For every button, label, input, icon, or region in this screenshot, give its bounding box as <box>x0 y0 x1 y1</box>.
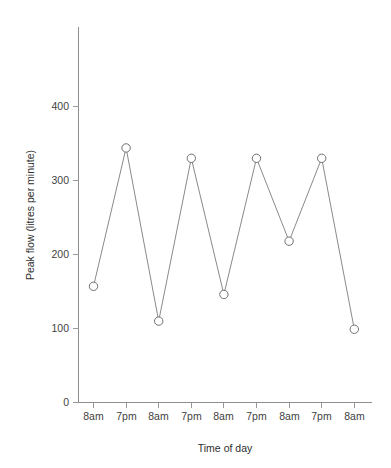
data-point <box>350 325 358 333</box>
y-axis-title: Peak flow (litres per minute) <box>24 150 36 280</box>
x-tick-label-9: 8am <box>344 410 365 422</box>
data-point <box>252 154 260 162</box>
x-axis-title: Time of day <box>198 442 253 454</box>
x-tick-label-3: 8am <box>148 410 169 422</box>
x-tick-label-6: 7pm <box>246 410 267 422</box>
x-tick-label-8: 7pm <box>311 410 332 422</box>
x-tick-label-1: 8am <box>83 410 104 422</box>
data-point <box>285 237 293 245</box>
series-markers-group <box>89 144 358 334</box>
series-line-peak-flow <box>94 148 355 329</box>
y-tick-label-400: 400 <box>51 100 69 112</box>
y-tick-label-0: 0 <box>63 396 69 408</box>
data-point <box>122 144 130 152</box>
chart-container: 0 100 200 300 400 8am 7pm 8am 7pm 8am 7p… <box>0 0 391 468</box>
y-tick-label-300: 300 <box>51 174 69 186</box>
y-tick-label-200: 200 <box>51 248 69 260</box>
data-point <box>318 154 326 162</box>
data-point <box>155 317 163 325</box>
x-tick-label-5: 8am <box>213 410 234 422</box>
x-tick-label-2: 7pm <box>116 410 137 422</box>
y-tick-label-100: 100 <box>51 322 69 334</box>
peak-flow-line-chart: 0 100 200 300 400 8am 7pm 8am 7pm 8am 7p… <box>0 0 391 468</box>
data-point <box>187 154 195 162</box>
x-tick-label-4: 7pm <box>181 410 202 422</box>
data-point <box>89 282 97 290</box>
x-tick-label-7: 8am <box>279 410 300 422</box>
data-point <box>220 290 228 298</box>
